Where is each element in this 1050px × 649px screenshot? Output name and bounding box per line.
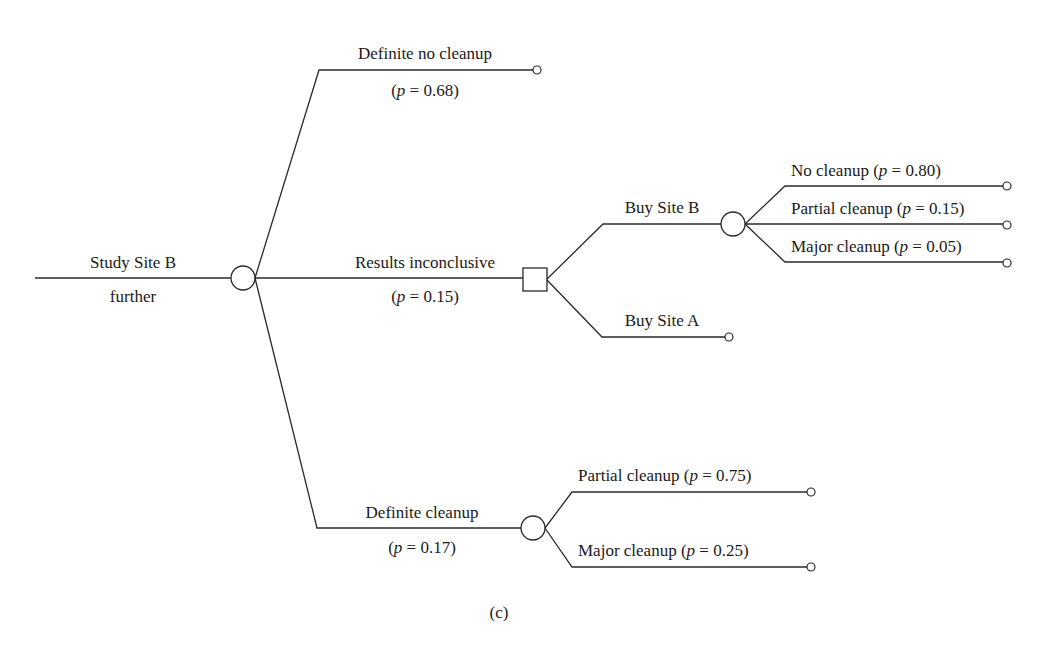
terminal-node [1003,259,1011,267]
terminal-node [725,333,733,341]
outcome-partial-cleanup: Partial cleanup (p = 0.15) [745,199,1011,229]
outcome-label: No cleanup (p = 0.80) [791,161,941,180]
outcome-major-cleanup-2: Major cleanup (p = 0.25) [545,528,815,571]
terminal-node [1003,182,1011,190]
branch-label: Results inconclusive [355,253,495,272]
branch-label: Buy Site B [625,198,700,217]
outcome-label: Major cleanup (p = 0.05) [791,237,962,256]
terminal-node [1003,221,1011,229]
decision-tree-diagram: Study Site B further Definite no cleanup… [0,0,1050,649]
branch-definite-cleanup: Definite cleanup (p = 0.17) [255,278,521,557]
branch-label: Buy Site A [625,311,700,330]
branch-probability: (p = 0.68) [391,81,459,100]
outcome-label: Partial cleanup (p = 0.15) [791,199,964,218]
decision-node [523,268,547,291]
branch-definite-no-cleanup: Definite no cleanup (p = 0.68) [255,44,541,278]
branch-label: Definite no cleanup [358,44,492,63]
chance-node-study [231,266,255,290]
branch-buy-site-b: Buy Site B [547,198,721,279]
branch-probability: (p = 0.15) [391,287,459,306]
outcome-label: Major cleanup (p = 0.25) [578,541,749,560]
outcome-partial-cleanup-2: Partial cleanup (p = 0.75) [545,466,815,528]
branch-probability: (p = 0.17) [388,538,456,557]
outcome-major-cleanup: Major cleanup (p = 0.05) [745,224,1011,267]
root-branch: Study Site B further [35,253,231,306]
terminal-node [807,563,815,571]
branch-buy-site-a: Buy Site A [547,280,733,341]
outcome-label: Partial cleanup (p = 0.75) [578,466,751,485]
root-label-bottom: further [110,287,157,306]
figure-caption: (c) [490,603,509,622]
chance-node-cleanup [521,516,545,540]
chance-node-buy-b [721,212,745,236]
root-label-top: Study Site B [90,253,176,272]
terminal-node [807,488,815,496]
terminal-node [533,66,541,74]
branch-results-inconclusive: Results inconclusive (p = 0.15) [255,253,523,306]
branch-label: Definite cleanup [366,503,479,522]
